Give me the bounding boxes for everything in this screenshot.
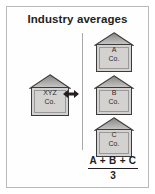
house-a-line1: A (112, 46, 117, 53)
house-a-line2: Co. (96, 55, 132, 64)
house-a-label: A Co. (96, 46, 132, 63)
house-b: B Co. (94, 75, 134, 115)
average-formula: A + B + C 3 (82, 155, 144, 182)
house-b-label: B Co. (96, 89, 132, 106)
figure-title: Industry averages (0, 13, 155, 25)
double-headed-arrow-icon (63, 88, 79, 100)
industry-averages-figure: Industry averages XYZ Co. (0, 0, 155, 194)
house-b-line2: Co. (96, 98, 132, 107)
vertical-divider (82, 33, 83, 150)
formula-denominator: 3 (82, 170, 144, 182)
house-c-line1: C (111, 131, 116, 138)
formula-numerator: A + B + C (82, 155, 144, 167)
house-c-label: C Co. (96, 131, 132, 148)
house-c-line2: Co. (96, 140, 132, 149)
house-c: C Co. (94, 117, 134, 157)
house-a: A Co. (94, 32, 134, 72)
house-b-line1: B (112, 89, 117, 96)
formula-fraction-bar (88, 168, 138, 169)
house-xyz-line1: XYZ (43, 89, 57, 96)
